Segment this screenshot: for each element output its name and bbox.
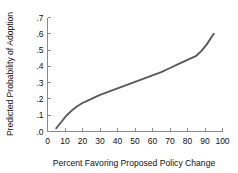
y-tick-label: .6: [36, 29, 43, 39]
y-tick-label: .7: [36, 13, 43, 23]
y-axis-title: Predicted Probability of Adoption: [5, 12, 15, 136]
x-tick-label: 50: [130, 136, 140, 146]
x-tick-label: 20: [78, 136, 88, 146]
y-tick-label: .4: [36, 61, 43, 71]
plot-area: .0.1.2.3.4.5.6.7 0102030405060708090100 …: [0, 0, 238, 173]
x-tick-label: 60: [148, 136, 158, 146]
x-tick-label: 40: [113, 136, 123, 146]
x-tick-labels: 0102030405060708090100: [45, 136, 230, 146]
y-tick-labels: .0.1.2.3.4.5.6.7: [36, 13, 43, 137]
y-tick-label: .0: [36, 127, 43, 137]
y-tick-marks: [48, 18, 52, 132]
data-curve-predicted-probability: [56, 34, 214, 128]
chart-figure: .0.1.2.3.4.5.6.7 0102030405060708090100 …: [0, 0, 238, 173]
x-tick-label: 0: [45, 136, 50, 146]
x-tick-label: 80: [183, 136, 193, 146]
x-tick-label: 70: [165, 136, 175, 146]
y-tick-label: .1: [36, 110, 43, 120]
x-tick-marks: [48, 128, 223, 132]
y-tick-label: .5: [36, 45, 43, 55]
x-axis-title: Percent Favoring Proposed Policy Change: [53, 158, 216, 168]
x-tick-label: 10: [60, 136, 70, 146]
x-axis: 0102030405060708090100: [45, 128, 230, 146]
x-tick-label: 30: [95, 136, 105, 146]
y-tick-label: .3: [36, 78, 43, 88]
y-tick-label: .2: [36, 94, 43, 104]
y-axis: .0.1.2.3.4.5.6.7: [36, 13, 51, 137]
x-tick-label: 100: [215, 136, 229, 146]
x-tick-label: 90: [200, 136, 210, 146]
